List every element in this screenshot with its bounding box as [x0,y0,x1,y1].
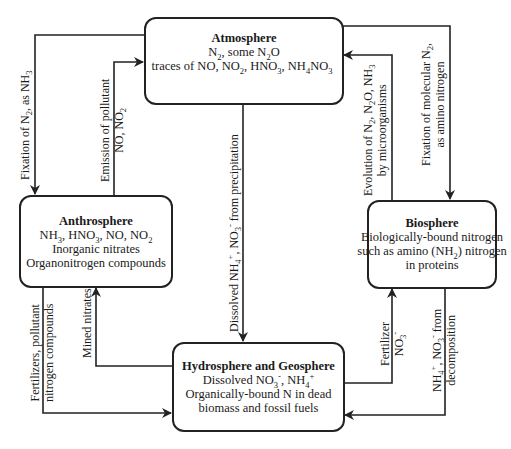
edge-fertilizers-pollutant [43,287,171,413]
label-fertilizers-pollutant: Fertilizers, pollutantnitrogen compounds [28,304,56,402]
node-atmosphere: Atmosphere N2, some N2O traces of NO, NO… [144,17,344,105]
biosphere-line2: such as amino (NH2) nitrogen [349,244,511,258]
anthrosphere-line1: NH3, HNO3, NO, NO2 [21,228,171,242]
node-biosphere: Biosphere Biologically-bound nitrogen su… [367,200,497,289]
hydrosphere-title: Hydrosphere and Geosphere [164,359,353,373]
biosphere-title: Biosphere [369,216,495,230]
hydrosphere-line2: Organically-bound N in dead [174,387,343,401]
label-precipitation: Dissolved NH4+, NO3- from precipitation [227,134,241,332]
atmosphere-line1: N2, some N2O [146,45,342,59]
edge-fixation-nh3 [35,35,144,194]
anthrosphere-line3: Organonitrogen compounds [21,256,171,270]
label-mined-nitrates: Mined nitrates [80,288,94,358]
label-fixation-amino: Fixation of molecular N2,as amino nitrog… [419,43,447,166]
biosphere-line1: Biologically-bound nitrogen [349,230,511,244]
edge-mined-nitrates [96,288,172,366]
node-anthrosphere: Anthrosphere NH3, HNO3, NO, NO2 Inorgani… [19,195,173,288]
label-evolution: Evolution of N2, N2O, NH3by microorganis… [361,65,389,196]
label-fixation-nh3: Fixation of N2, as NH3 [18,71,32,181]
label-emission: Emission of pollutantNO, NO2 [98,79,126,182]
atmosphere-line2: traces of NO, NO2, HNO3, NH4NO3 [142,59,342,73]
node-hydrosphere-geosphere: Hydrosphere and Geosphere Dissolved NO3-… [172,342,345,432]
hydrosphere-line3: biomass and fossil fuels [174,401,343,415]
label-decomposition: NH4+, NO3- fromdecomposition [430,309,458,392]
anthrosphere-title: Anthrosphere [21,214,171,228]
hydrosphere-line1: Dissolved NO3-, NH4+ [174,373,343,387]
atmosphere-title: Atmosphere [146,31,342,45]
biosphere-line3: in proteins [369,258,495,272]
label-fertilizer-no3: FertilizerNO3- [378,322,406,366]
